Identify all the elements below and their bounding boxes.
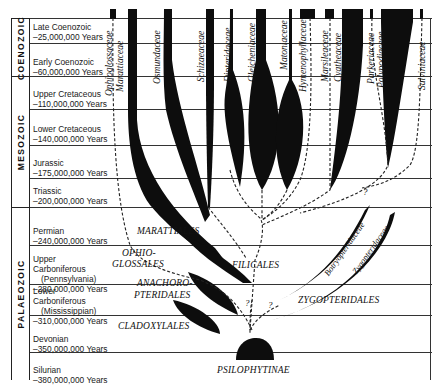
ophioglossaceae-stub [110, 9, 116, 19]
psilophytinae-base [236, 338, 274, 360]
order-zygopteridales: ZYGOPTERIDALES [298, 295, 379, 305]
family-gleicheniaceae: Gleicheniaceae [247, 23, 257, 82]
family-ophioglossaceae: Ophioglossaceae [104, 31, 114, 96]
question-mark: ? [245, 298, 250, 308]
order-anachoropteridales-2: PTERIDALES [134, 290, 190, 300]
salviniaceae-stub [420, 9, 423, 19]
order-ophioglossales-1: OPHIO- [122, 248, 156, 258]
family-marattiaceae: Marattiaceae [115, 41, 125, 92]
family-salviniaceae: Salviniaceae [417, 41, 427, 90]
order-ophioglossales-2: GLOSSALES [112, 259, 164, 269]
parkeriaceae-stub [370, 9, 373, 19]
order-psilophytinae: PSILOPHYTINAE [217, 365, 290, 375]
family-osmundaceae: Osmundaceae [152, 30, 162, 84]
family-cyatheaceae: Cyatheaceae [333, 33, 343, 82]
zygopterid-link [250, 305, 280, 330]
question-mark: ? [363, 187, 368, 197]
family-dipteridaceae: Dipteridaceae [223, 28, 233, 82]
family-marsileaceae: Marsileaceae [320, 30, 330, 82]
order-filicales: FILICALES [232, 260, 279, 270]
family-hymenophyllaceae: Hymenophyllaceae [298, 19, 308, 92]
family-parkeriaceae: Parkeriaceae [366, 33, 376, 84]
family-matoniaceae: Matoniaceae [279, 20, 289, 70]
botryopteridaceae-band [280, 205, 370, 300]
schizaeaceae-band [206, 9, 214, 207]
question-mark: ? [268, 300, 273, 310]
marsileaceae-stub [325, 9, 334, 19]
fern-phylogeny-diagram: COENOZOIC MESOZOIC PALAEOZOIC Late Coeno… [0, 0, 437, 386]
order-marattiales: MARATTIALES [137, 226, 200, 236]
family-schizaeaceae: Schizaeaceae [196, 31, 206, 82]
hymenophyllaceae-stub [300, 9, 315, 19]
order-anachoropteridales-1: ANACHORO- [137, 278, 193, 288]
order-cladoxylales: CLADOXYLALES [118, 321, 190, 331]
family-polypodiaceae: Polypodiaceae [376, 32, 386, 88]
